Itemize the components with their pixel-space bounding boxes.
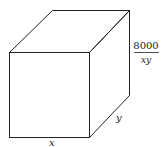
height-label-numerator: 8000 [133, 40, 158, 51]
depth-label: y [115, 112, 122, 123]
box-drawing: 8000 xy y x [0, 0, 166, 147]
right-face [90, 11, 130, 138]
width-label: x [49, 137, 55, 147]
top-face [10, 11, 130, 53]
front-face [10, 53, 90, 138]
height-label-denominator: xy [141, 55, 152, 65]
box-diagram: 8000 xy y x [0, 0, 166, 147]
